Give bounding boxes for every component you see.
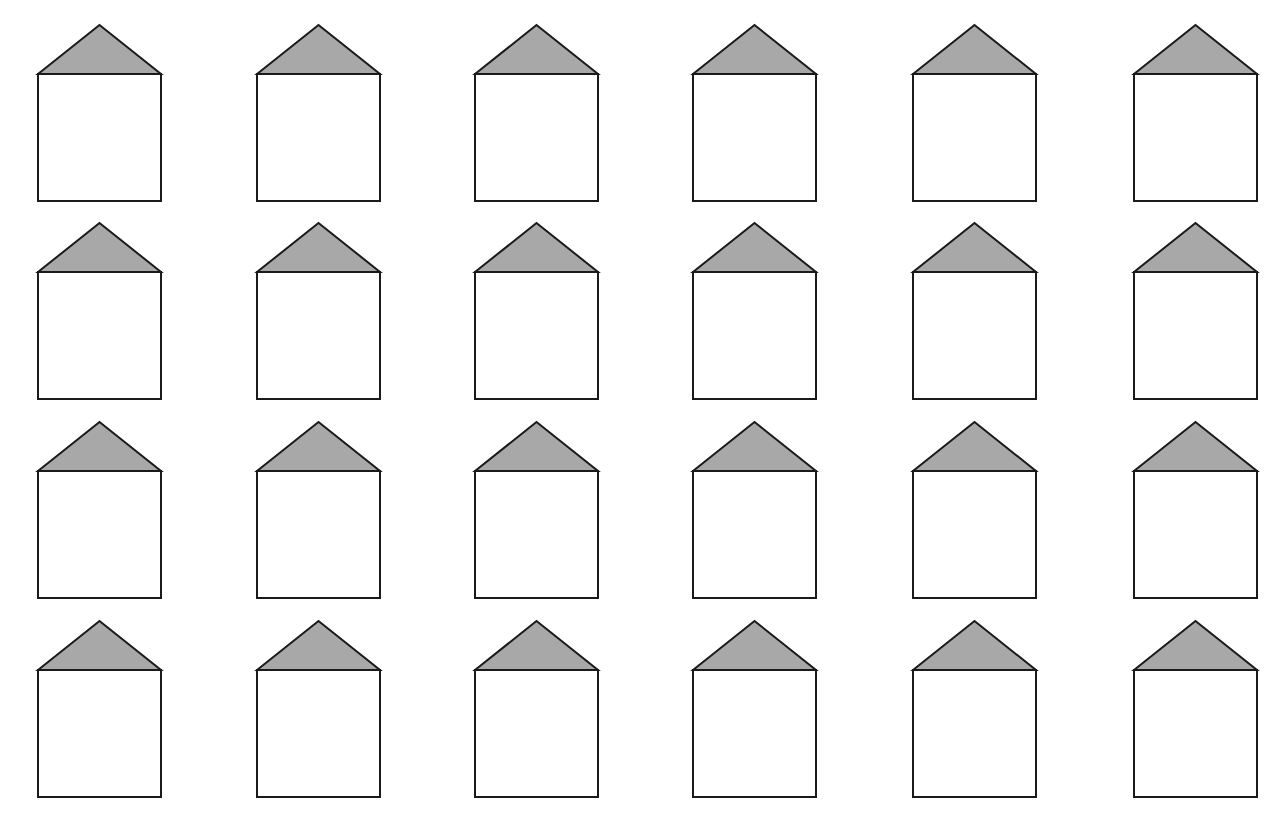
house-body-square [475, 74, 598, 201]
house-shape [1133, 222, 1258, 400]
house-body-square [1134, 272, 1257, 399]
house-roof-triangle [693, 621, 816, 670]
house-roof-triangle [257, 621, 380, 670]
house-roof-triangle [475, 621, 598, 670]
house-shape [1133, 24, 1258, 202]
house-shape [912, 620, 1037, 798]
house-roof-triangle [693, 223, 816, 272]
house-body-square [38, 471, 161, 598]
house-shape [256, 222, 381, 400]
house-body-square [913, 670, 1036, 797]
house-roof-triangle [38, 621, 161, 670]
house-shape [474, 222, 599, 400]
house-roof-triangle [38, 422, 161, 471]
house-roof-triangle [257, 25, 380, 74]
house-roof-triangle [913, 422, 1036, 471]
house-shape [37, 24, 162, 202]
house-roof-triangle [1134, 223, 1257, 272]
house-shape [474, 24, 599, 202]
house-shape [912, 24, 1037, 202]
house-body-square [475, 670, 598, 797]
house-shape [474, 620, 599, 798]
house-body-square [257, 74, 380, 201]
house-body-square [913, 471, 1036, 598]
house-body-square [1134, 670, 1257, 797]
house-body-square [257, 272, 380, 399]
house-body-square [693, 272, 816, 399]
house-roof-triangle [913, 223, 1036, 272]
house-body-square [693, 670, 816, 797]
house-shape [692, 24, 817, 202]
house-grid [0, 0, 1286, 816]
house-body-square [475, 471, 598, 598]
house-roof-triangle [475, 223, 598, 272]
house-body-square [693, 74, 816, 201]
house-shape [692, 222, 817, 400]
house-roof-triangle [475, 25, 598, 74]
house-body-square [693, 471, 816, 598]
house-shape [912, 421, 1037, 599]
house-shape [692, 620, 817, 798]
house-shape [1133, 620, 1258, 798]
house-shape [37, 620, 162, 798]
house-roof-triangle [693, 422, 816, 471]
house-roof-triangle [693, 25, 816, 74]
house-body-square [475, 272, 598, 399]
house-roof-triangle [1134, 621, 1257, 670]
house-body-square [38, 670, 161, 797]
house-roof-triangle [1134, 422, 1257, 471]
house-roof-triangle [38, 223, 161, 272]
house-body-square [38, 272, 161, 399]
house-body-square [257, 471, 380, 598]
house-roof-triangle [475, 422, 598, 471]
house-body-square [913, 272, 1036, 399]
house-body-square [913, 74, 1036, 201]
house-roof-triangle [38, 25, 161, 74]
house-body-square [38, 74, 161, 201]
house-shape [256, 620, 381, 798]
house-shape [256, 24, 381, 202]
house-roof-triangle [257, 422, 380, 471]
house-shape [256, 421, 381, 599]
house-shape [37, 421, 162, 599]
house-roof-triangle [1134, 25, 1257, 74]
house-shape [37, 222, 162, 400]
house-body-square [257, 670, 380, 797]
house-roof-triangle [913, 621, 1036, 670]
house-body-square [1134, 74, 1257, 201]
house-roof-triangle [257, 223, 380, 272]
house-body-square [1134, 471, 1257, 598]
house-shape [912, 222, 1037, 400]
house-shape [692, 421, 817, 599]
house-shape [1133, 421, 1258, 599]
house-shape [474, 421, 599, 599]
house-roof-triangle [913, 25, 1036, 74]
